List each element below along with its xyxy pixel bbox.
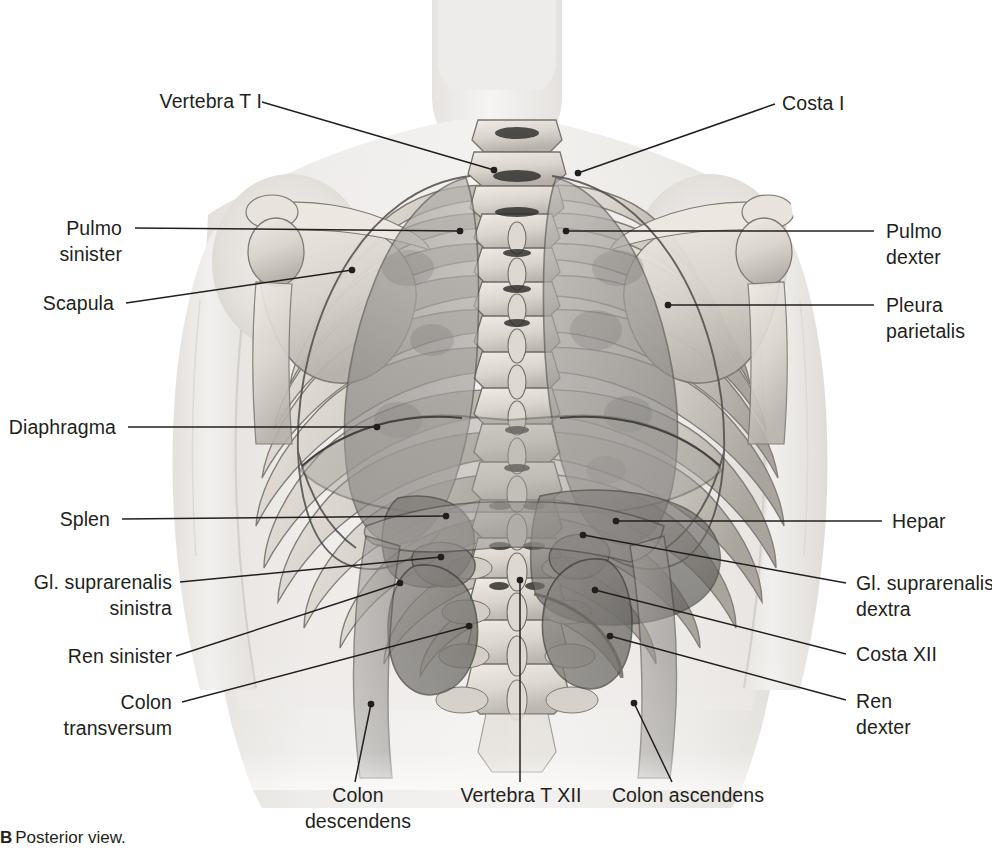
label-costa-i: Costa I xyxy=(782,90,982,116)
label-pleura-parietalis: Pleura parietalis xyxy=(886,292,992,344)
label-gl-suprarenalis-dextra: Gl. suprarenalis dextra xyxy=(856,570,992,622)
caption-text: Posterior view. xyxy=(15,828,126,847)
label-costa-xii: Costa XII xyxy=(856,641,992,667)
label-splen: Splen xyxy=(12,506,110,532)
label-vertebra-t-i: Vertebra T I xyxy=(12,88,262,114)
figure-caption: BPosterior view. xyxy=(0,826,126,850)
label-ren-sinister: Ren sinister xyxy=(2,643,172,669)
caption-letter: B xyxy=(0,828,12,847)
label-colon-descendens: Colon descendens xyxy=(288,782,428,834)
label-hepar: Hepar xyxy=(892,508,992,534)
label-ren-dexter: Ren dexter xyxy=(856,688,992,740)
label-pulmo-sinister: Pulmo sinister xyxy=(12,215,122,267)
label-vertebra-t-xii: Vertebra T XII xyxy=(443,782,599,808)
anatomy-figure: Vertebra T I Pulmo sinister Scapula Diap… xyxy=(0,0,992,859)
label-colon-ascendens: Colon ascendens xyxy=(598,782,778,808)
label-diaphragma: Diaphragma xyxy=(2,414,116,440)
label-gl-suprarenalis-sinistra: Gl. suprarenalis sinistra xyxy=(2,569,172,621)
label-scapula: Scapula xyxy=(12,290,114,316)
label-pulmo-dexter: Pulmo dexter xyxy=(886,218,992,270)
label-colon-transversum: Colon transversum xyxy=(2,689,172,741)
